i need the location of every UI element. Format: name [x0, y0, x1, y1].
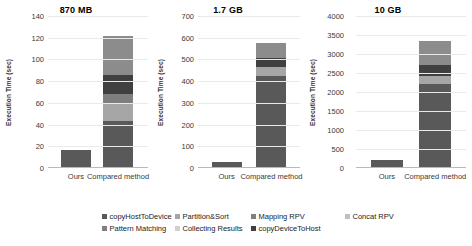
gridline	[48, 38, 148, 39]
bar-segment	[103, 121, 133, 167]
gridline	[356, 111, 466, 112]
gridline	[48, 125, 148, 126]
gridline	[356, 54, 466, 55]
legend-item[interactable]: Partition&Sort	[175, 212, 229, 221]
legend-item[interactable]: copyHostToDevice	[102, 212, 172, 221]
legend-item[interactable]: Concat RPV	[345, 212, 394, 221]
x-axis-labels-17gb: OursCompared method	[198, 169, 300, 185]
y-axis-ticklabels-10gb: 05001000150020002500300035004000	[314, 16, 344, 168]
bar-ours	[371, 15, 403, 167]
gridline	[48, 16, 148, 17]
y-tick-label: 400	[181, 77, 194, 86]
bar-segment	[371, 160, 403, 167]
chart-panels: 870 MB Execution Time (sec) 020406080100…	[0, 0, 472, 205]
y-axis-title-870mb: Execution Time (sec)	[2, 16, 14, 168]
y-axis-ticklabels-870mb: 020406080100120140	[14, 16, 44, 168]
y-tick-label: 100	[181, 142, 194, 151]
y-tick-label: 2000	[327, 88, 344, 97]
y-tick-label: 40	[36, 120, 44, 129]
y-tick-label: 600	[181, 33, 194, 42]
bar-segment	[419, 65, 451, 75]
legend-label: Partition&Sort	[183, 212, 229, 221]
plot-wrap-870mb: Execution Time (sec) 020406080100120140 …	[0, 16, 152, 191]
gridline	[356, 35, 466, 36]
legend-label: Concat RPV	[353, 212, 394, 221]
legend-label: Collecting Results	[183, 224, 243, 233]
y-tick-label: 700	[181, 12, 194, 21]
x-tick-label: Ours	[218, 172, 234, 181]
x-tick-label: Compared method	[87, 172, 149, 181]
gridline	[356, 16, 466, 17]
y-tick-label: 3500	[327, 31, 344, 40]
plot-area-870mb	[48, 16, 148, 168]
plot-area-17gb	[198, 16, 300, 168]
y-axis-ticklabels-17gb: 0100200300400500600700	[164, 16, 194, 168]
y-tick-label: 3000	[327, 50, 344, 59]
y-tick-label: 0	[40, 164, 44, 173]
y-tick-label: 200	[181, 120, 194, 129]
chart-panel-870mb: 870 MB Execution Time (sec) 020406080100…	[0, 0, 152, 205]
x-tick-label: Ours	[379, 172, 395, 181]
legend-swatch-icon	[251, 226, 256, 231]
gridline	[48, 146, 148, 147]
legend-item[interactable]: Collecting Results	[175, 224, 243, 233]
y-axis-title-text: Execution Time (sec)	[157, 59, 164, 126]
bar-segment	[419, 76, 451, 85]
figure-stacked-bar-charts: 870 MB Execution Time (sec) 020406080100…	[0, 0, 472, 246]
legend-swatch-icon	[175, 214, 180, 219]
y-tick-label: 100	[31, 55, 44, 64]
legend-label: copyDeviceToHost	[259, 224, 321, 233]
y-tick-label: 500	[331, 145, 344, 154]
legend-swatch-icon	[345, 214, 350, 219]
y-tick-label: 4000	[327, 12, 344, 21]
gridline	[198, 59, 300, 60]
legend-item[interactable]: copyDeviceToHost	[251, 224, 321, 233]
y-tick-label: 1500	[327, 107, 344, 116]
legend-label: Pattern Matching	[110, 224, 167, 233]
gridline	[198, 38, 300, 39]
x-tick-label: Ours	[68, 172, 84, 181]
gridline	[198, 16, 300, 17]
bar-segment	[256, 43, 286, 58]
gridline	[198, 125, 300, 126]
legend-swatch-icon	[102, 226, 107, 231]
plot-area-10gb	[356, 16, 466, 168]
bar-segment	[256, 76, 286, 167]
bar-segment	[103, 75, 133, 95]
y-tick-label: 80	[36, 77, 44, 86]
bar-segment	[256, 67, 286, 76]
bar-segment	[61, 150, 91, 167]
x-axis-labels-870mb: OursCompared method	[48, 169, 148, 185]
y-tick-label: 0	[190, 164, 194, 173]
y-tick-label: 140	[31, 12, 44, 21]
gridline	[356, 130, 466, 131]
bar-segment	[419, 84, 451, 167]
gridline	[198, 81, 300, 82]
gridline	[48, 81, 148, 82]
legend-swatch-icon	[175, 226, 180, 231]
x-axis-labels-10gb: OursCompared method	[356, 169, 466, 185]
x-tick-label: Compared method	[240, 172, 302, 181]
gridline	[198, 103, 300, 104]
legend-label: copyHostToDevice	[110, 212, 172, 221]
bar-stack	[419, 15, 451, 167]
bar-stack	[371, 15, 403, 167]
bar-compared-method	[419, 15, 451, 167]
y-tick-label: 120	[31, 33, 44, 42]
gridline	[198, 146, 300, 147]
gridline	[356, 92, 466, 93]
bar-segment	[212, 162, 242, 167]
gridline	[48, 59, 148, 60]
gridline	[48, 103, 148, 104]
bar-segment	[103, 104, 133, 121]
legend-swatch-icon	[102, 214, 107, 219]
y-tick-label: 20	[36, 142, 44, 151]
gridline	[356, 149, 466, 150]
chart-legend: copyHostToDevicePartition&SortMapping RP…	[0, 206, 472, 246]
x-tick-label: Compared method	[404, 172, 466, 181]
plot-wrap-17gb: Execution Time (sec) 0100200300400500600…	[152, 16, 304, 191]
plot-wrap-10gb: Execution Time (sec) 0500100015002000250…	[304, 16, 472, 191]
legend-item[interactable]: Pattern Matching	[102, 224, 166, 233]
bar-segment	[103, 36, 133, 75]
legend-item[interactable]: Mapping RPV	[251, 212, 305, 221]
